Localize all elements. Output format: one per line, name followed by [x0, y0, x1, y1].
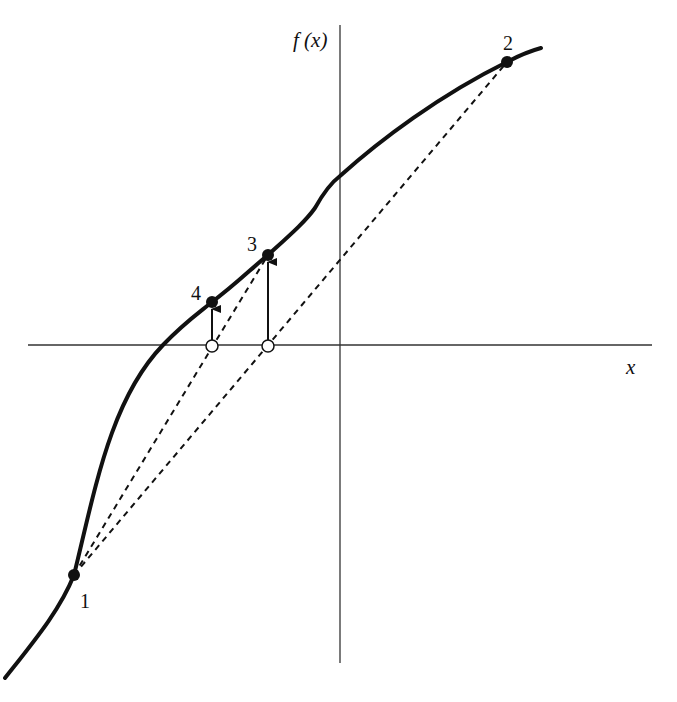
point-label-3: 3	[247, 233, 257, 255]
root-marker	[262, 340, 274, 352]
root-marker	[206, 340, 218, 352]
point-label-2: 2	[503, 32, 513, 54]
iteration-points: 1234	[68, 32, 513, 612]
point-label-4: 4	[191, 282, 201, 304]
x-axis-label: x	[625, 355, 636, 379]
y-axis-label: f (x)	[293, 28, 327, 52]
function-curve	[5, 48, 541, 678]
point-label-1: 1	[80, 590, 90, 612]
secant-line-1-2	[74, 62, 507, 575]
point-3	[262, 249, 274, 261]
secant-line-1-3	[74, 255, 268, 575]
diagram-canvas: 1234 f (x) x	[0, 0, 677, 702]
point-2	[501, 56, 513, 68]
point-1	[68, 569, 80, 581]
secant-lines	[74, 62, 507, 575]
point-4	[206, 296, 218, 308]
secant-roots	[206, 340, 274, 352]
